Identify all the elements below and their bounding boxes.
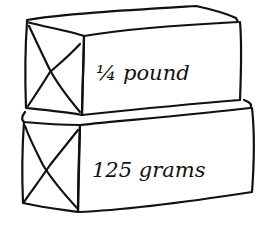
stacked-packages-diagram: ¼ pound 125 grams: [0, 0, 265, 232]
top-package: ¼ pound: [25, 6, 241, 115]
bottom-package: 125 grams: [22, 100, 254, 212]
bottom-package-end-face: [22, 122, 80, 212]
bottom-package-label: 125 grams: [92, 158, 206, 182]
top-package-top-face: [27, 6, 238, 36]
bottom-package-end-cross-1: [25, 126, 77, 208]
top-package-label: ¼ pound: [96, 61, 190, 85]
